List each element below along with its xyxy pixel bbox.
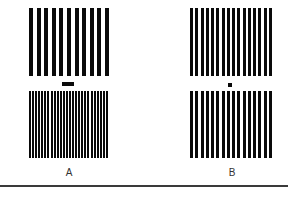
grating-bar — [97, 8, 101, 76]
grating-bar — [248, 91, 251, 158]
grating-b-bottom — [190, 91, 272, 158]
grating-bar — [87, 91, 89, 158]
grating-bar — [52, 8, 56, 76]
grating-bar — [67, 8, 71, 76]
grating-bar — [206, 91, 209, 158]
grating-bar — [237, 8, 240, 76]
grating-bar — [201, 8, 204, 76]
grating-bar — [211, 8, 214, 76]
grating-bar — [232, 91, 235, 158]
grating-bar — [100, 91, 102, 158]
bottom-rule — [0, 185, 288, 187]
grating-bar — [264, 91, 267, 158]
panel-label-b: B — [222, 167, 242, 178]
grating-bar — [59, 8, 63, 76]
grating-bar — [51, 91, 53, 158]
grating-bar — [94, 91, 96, 158]
grating-bar — [75, 91, 77, 158]
grating-bar — [195, 8, 198, 76]
grating-bar — [44, 91, 46, 158]
grating-bar — [84, 91, 86, 158]
grating-bar — [91, 91, 93, 158]
grating-bar — [264, 8, 267, 76]
grating-bar — [41, 91, 43, 158]
grating-bar — [211, 91, 214, 158]
grating-bar — [269, 91, 272, 158]
grating-bar — [253, 8, 256, 76]
grating-bar — [258, 91, 261, 158]
grating-bar — [97, 91, 99, 158]
grating-bar — [29, 91, 31, 158]
grating-bar — [54, 91, 56, 158]
grating-bar — [103, 91, 105, 158]
grating-bar — [75, 8, 79, 76]
grating-bar — [195, 91, 198, 158]
grating-bar — [206, 8, 209, 76]
grating-bar — [243, 91, 246, 158]
grating-bar — [227, 91, 230, 158]
grating-bar — [248, 8, 251, 76]
grating-bar — [35, 91, 37, 158]
marker-b-dot — [228, 83, 232, 87]
grating-bar — [47, 91, 49, 158]
grating-bar — [253, 91, 256, 158]
grating-a-bottom — [29, 91, 108, 158]
grating-b-top — [190, 8, 272, 76]
grating-bar — [72, 91, 74, 158]
grating-bar — [232, 8, 235, 76]
grating-bar — [237, 91, 240, 158]
grating-bar — [243, 8, 246, 76]
grating-bar — [216, 8, 219, 76]
grating-bar — [57, 91, 59, 158]
grating-bar — [82, 8, 86, 76]
grating-bar — [32, 91, 34, 158]
panel-label-a: A — [59, 167, 79, 178]
grating-bar — [37, 8, 41, 76]
marker-a-dash — [62, 82, 74, 86]
grating-bar — [69, 91, 71, 158]
grating-bar — [106, 91, 108, 158]
grating-bar — [269, 8, 272, 76]
grating-bar — [222, 91, 225, 158]
grating-bar — [38, 91, 40, 158]
grating-bar — [44, 8, 48, 76]
grating-bar — [81, 91, 83, 158]
grating-bar — [190, 8, 193, 76]
grating-bar — [216, 91, 219, 158]
grating-bar — [258, 8, 261, 76]
grating-bar — [227, 8, 230, 76]
grating-bar — [222, 8, 225, 76]
grating-bar — [66, 91, 68, 158]
grating-bar — [190, 91, 193, 158]
grating-a-top — [29, 8, 109, 76]
grating-bar — [201, 91, 204, 158]
grating-bar — [29, 8, 33, 76]
grating-bar — [78, 91, 80, 158]
grating-bar — [90, 8, 94, 76]
grating-bar — [105, 8, 109, 76]
grating-bar — [60, 91, 62, 158]
grating-bar — [63, 91, 65, 158]
